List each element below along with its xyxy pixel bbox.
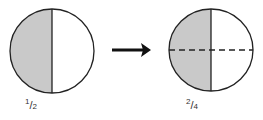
left-denominator: 2 xyxy=(33,103,37,111)
right-fraction-label: 2 / 4 xyxy=(186,99,198,111)
left-numerator: 1 xyxy=(25,98,29,106)
left-fraction-label: 1 / 2 xyxy=(25,99,37,111)
left-shaded-half xyxy=(10,9,52,93)
right-denominator: 4 xyxy=(194,103,198,111)
equivalent-fractions-diagram xyxy=(0,0,263,120)
right-circle-quarters xyxy=(169,9,253,91)
arrow-right-icon xyxy=(112,43,151,57)
left-circle-half xyxy=(10,9,94,93)
right-numerator: 2 xyxy=(186,98,190,106)
